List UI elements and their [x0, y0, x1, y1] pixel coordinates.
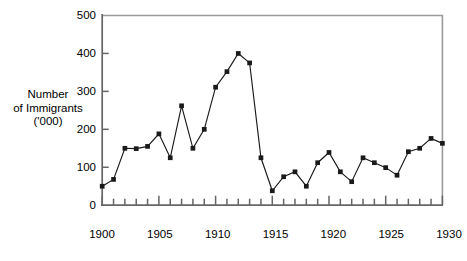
data-point-marker	[315, 160, 320, 165]
data-point-marker	[338, 169, 343, 174]
data-point-marker	[383, 165, 388, 170]
data-line	[102, 53, 442, 190]
data-point-marker	[395, 173, 400, 178]
data-point-marker	[327, 150, 332, 155]
data-point-marker	[100, 184, 105, 189]
data-point-marker	[349, 179, 354, 184]
data-point-marker	[406, 149, 411, 154]
data-point-marker	[270, 188, 275, 193]
data-point-marker	[145, 144, 150, 149]
y-tick-marks	[102, 53, 109, 167]
data-point-marker	[111, 177, 116, 182]
x-tick-marks	[102, 196, 442, 206]
data-point-marker	[304, 184, 309, 189]
data-point-marker	[202, 127, 207, 132]
data-point-marker	[157, 132, 162, 137]
data-point-marker	[259, 155, 264, 160]
data-point-marker	[236, 51, 241, 56]
data-point-marker	[213, 85, 218, 90]
data-point-marker	[191, 146, 196, 151]
data-point-marker	[361, 155, 366, 160]
data-point-marker	[281, 174, 286, 179]
data-point-marker	[225, 69, 230, 74]
data-point-marker	[179, 103, 184, 108]
data-point-marker	[440, 141, 445, 146]
data-point-marker	[134, 146, 139, 151]
data-point-marker	[168, 155, 173, 160]
data-point-marker	[293, 169, 298, 174]
data-point-marker	[372, 160, 377, 165]
data-markers	[100, 51, 445, 193]
data-point-marker	[429, 136, 434, 141]
data-point-marker	[417, 146, 422, 151]
data-point-marker	[123, 146, 128, 151]
data-point-marker	[247, 61, 252, 66]
